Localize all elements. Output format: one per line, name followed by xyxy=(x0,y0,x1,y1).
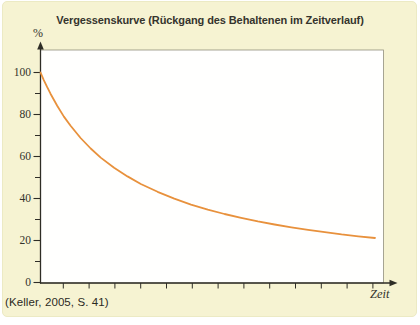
y-tick-label: 40 xyxy=(20,192,32,204)
y-axis-unit-label: % xyxy=(26,26,50,41)
y-tick-label: 100 xyxy=(14,66,32,78)
x-axis-label: Zeit xyxy=(370,287,410,302)
y-tick-label: 0 xyxy=(25,276,31,288)
x-axis-arrow-icon xyxy=(390,280,398,287)
citation-text: (Keller, 2005, S. 41) xyxy=(5,296,109,308)
y-tick-label: 60 xyxy=(20,150,32,162)
forgetting-curve-chart: 100806040200 xyxy=(0,0,420,325)
y-tick-label: 80 xyxy=(20,108,32,120)
chart-title: Vergessenskurve (Rückgang des Behaltenen… xyxy=(0,14,420,26)
y-axis-arrow-icon xyxy=(37,42,44,50)
y-tick-label: 20 xyxy=(20,234,32,246)
